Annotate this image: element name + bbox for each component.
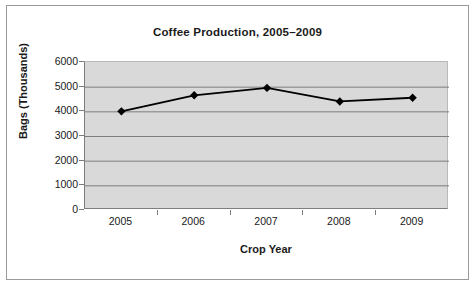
data-point-marker: [263, 84, 271, 92]
y-axis-tick-labels: 0100020003000400050006000: [40, 61, 78, 209]
x-axis-title: Crop Year: [84, 243, 448, 255]
y-axis-tick-label: 1000: [40, 178, 78, 190]
x-axis-tick-label: 2009: [400, 215, 423, 227]
y-axis-tick-label: 4000: [40, 104, 78, 116]
data-point-marker: [408, 94, 416, 102]
y-axis-tick-label: 0: [40, 203, 78, 215]
data-point-marker: [190, 91, 198, 99]
x-axis-tick-label: 2006: [182, 215, 205, 227]
data-point-marker: [336, 97, 344, 105]
x-axis-tick-label: 2005: [109, 215, 132, 227]
plot-svg: [85, 62, 449, 210]
y-axis-tick-label: 2000: [40, 154, 78, 166]
y-axis-tick-label: 5000: [40, 80, 78, 92]
chart-title: Coffee Production, 2005–2009: [0, 26, 475, 38]
x-axis-tick-labels: 20052006200720082009: [84, 215, 448, 231]
y-axis-title: Bags (Thousands): [17, 21, 29, 161]
data-point-marker: [117, 107, 125, 115]
y-axis-tick-label: 6000: [40, 55, 78, 67]
y-axis-tick-label: 3000: [40, 129, 78, 141]
chart-figure: Coffee Production, 2005–2009 Bags (Thous…: [0, 0, 475, 286]
x-axis-tick-label: 2007: [254, 215, 277, 227]
x-axis-tick-label: 2008: [327, 215, 350, 227]
plot-area: [84, 61, 448, 209]
